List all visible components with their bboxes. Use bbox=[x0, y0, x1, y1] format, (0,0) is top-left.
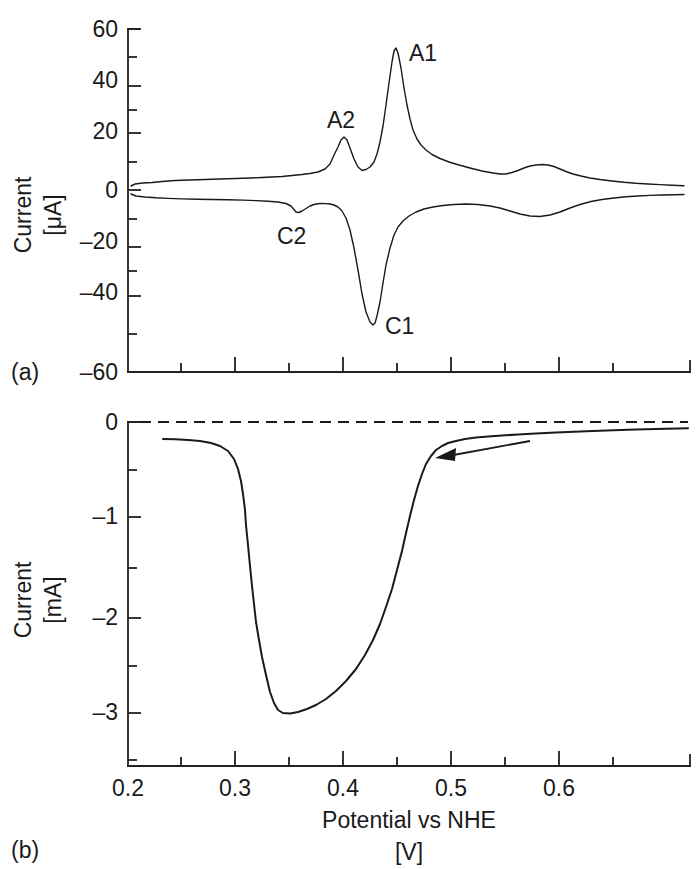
panel-a-anodic-curve bbox=[131, 48, 684, 186]
panel-a-peak-label-c1: C1 bbox=[385, 313, 414, 339]
panel-b: Current [mA] 0 –1 –2 –3 bbox=[10, 409, 690, 865]
panel-b-y-axis-title-line2: [mA] bbox=[40, 576, 66, 623]
panel-b-ytick-0: 0 bbox=[105, 409, 118, 435]
panel-b-xtick-0p4: 0.4 bbox=[327, 775, 359, 801]
panel-b-x-axis-title-line1: Potential vs NHE bbox=[322, 807, 496, 833]
panel-a-peak-label-a1: A1 bbox=[409, 40, 437, 66]
panel-b-x-minor-ticks bbox=[181, 757, 613, 766]
panel-a-label: (a) bbox=[11, 359, 39, 385]
panel-b-xtick-0p6: 0.6 bbox=[543, 775, 575, 801]
panel-a: Current [μA] 60 40 20 0 –20 –40 –60 bbox=[10, 16, 690, 385]
panel-a-y-axis-title-line2: [μA] bbox=[40, 194, 66, 235]
panel-a-ytick-m60: –60 bbox=[80, 359, 118, 385]
panel-b-xtick-0p5: 0.5 bbox=[435, 775, 467, 801]
panel-b-ytick-m2: –2 bbox=[92, 604, 118, 630]
panel-b-scan-direction-arrow bbox=[435, 441, 530, 461]
panel-a-ytick-60: 60 bbox=[92, 16, 118, 42]
panel-b-x-axis-title-line2: [V] bbox=[395, 839, 423, 865]
panel-b-cathodic-curve bbox=[163, 428, 688, 713]
panel-b-ytick-m1: –1 bbox=[92, 503, 118, 529]
panel-a-y-major-ticks bbox=[128, 29, 141, 372]
figure-container: Current [μA] 60 40 20 0 –20 –40 –60 bbox=[0, 0, 698, 869]
panel-a-peak-label-a2: A2 bbox=[327, 107, 355, 133]
panel-b-y-axis-title-line1: Current bbox=[10, 561, 36, 638]
panel-a-ytick-40: 40 bbox=[92, 67, 118, 93]
cyclic-voltammetry-figure: Current [μA] 60 40 20 0 –20 –40 –60 bbox=[0, 0, 698, 869]
panel-a-y-axis-title-line1: Current bbox=[10, 176, 36, 253]
panel-b-label: (b) bbox=[11, 837, 39, 863]
panel-b-ytick-m3: –3 bbox=[92, 699, 118, 725]
panel-b-xtick-0p2: 0.2 bbox=[112, 775, 144, 801]
panel-a-ytick-m40: –40 bbox=[80, 279, 118, 305]
panel-b-y-minor-ticks bbox=[128, 470, 137, 760]
panel-b-xtick-0p3: 0.3 bbox=[219, 775, 251, 801]
panel-a-ytick-0: 0 bbox=[105, 177, 118, 203]
panel-a-cathodic-curve bbox=[131, 194, 684, 325]
panel-a-x-minor-ticks bbox=[181, 363, 613, 372]
panel-a-peak-label-c2: C2 bbox=[277, 223, 306, 249]
panel-a-ytick-m20: –20 bbox=[80, 228, 118, 254]
panel-a-ytick-20: 20 bbox=[92, 118, 118, 144]
